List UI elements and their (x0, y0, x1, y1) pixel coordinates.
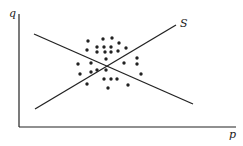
data-point (126, 83, 129, 86)
data-point (104, 68, 107, 71)
demand-line (34, 34, 193, 104)
data-point (85, 48, 88, 51)
data-point (135, 56, 138, 59)
data-point (104, 57, 107, 60)
data-point (109, 45, 112, 48)
data-point (110, 36, 113, 39)
data-point (78, 72, 81, 75)
supply-line-label: S (180, 17, 188, 30)
data-point (124, 46, 127, 49)
data-point (135, 62, 138, 65)
data-point (117, 41, 120, 44)
data-point (102, 77, 105, 80)
y-axis-label: q (9, 7, 16, 20)
supply-line (35, 25, 176, 109)
data-point (95, 50, 98, 53)
plot-area (0, 0, 243, 146)
chart: q p S (0, 0, 243, 146)
data-point (103, 50, 106, 53)
data-point (95, 45, 98, 48)
data-point (106, 86, 109, 89)
data-point (109, 50, 112, 53)
data-point (89, 70, 92, 73)
data-point (76, 62, 79, 65)
data-point (116, 49, 119, 52)
data-point (109, 77, 112, 80)
data-point (101, 37, 104, 40)
data-point (95, 68, 98, 71)
data-point (122, 61, 125, 64)
data-point (115, 77, 118, 80)
scatter-points (76, 36, 142, 89)
data-point (102, 45, 105, 48)
data-point (89, 61, 92, 64)
data-point (139, 72, 142, 75)
data-point (86, 39, 89, 42)
x-axis-label: p (229, 128, 236, 141)
data-point (85, 82, 88, 85)
